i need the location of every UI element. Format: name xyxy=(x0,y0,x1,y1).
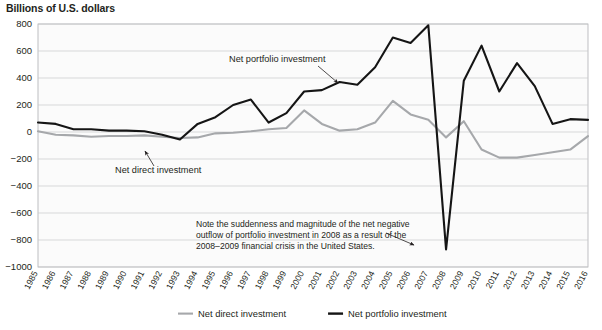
x-tick-2007: 2007 xyxy=(412,269,430,291)
x-tick-1986: 1986 xyxy=(40,269,58,291)
x-tick-1987: 1987 xyxy=(57,269,75,291)
annotation-line-2: outflow of portfolio investment in 2008 … xyxy=(196,230,406,240)
y-tick--200: −200 xyxy=(11,153,32,164)
x-tick-2008: 2008 xyxy=(430,269,448,291)
x-tick-2000: 2000 xyxy=(288,269,306,291)
x-tick-2010: 2010 xyxy=(466,269,484,291)
direct-inline-label: Net direct investment xyxy=(115,165,202,175)
x-tick-2013: 2013 xyxy=(519,269,537,291)
chart-figure: Billions of U.S. dollars 8006004002000−2… xyxy=(0,0,602,330)
y-tick-400: 400 xyxy=(16,72,32,83)
y-tick--1000: −1000 xyxy=(5,261,32,272)
x-tick-1993: 1993 xyxy=(164,269,182,291)
x-tick-2014: 2014 xyxy=(536,269,554,291)
y-axis-tick-labels: 8006004002000−200−400−600−800−1000 xyxy=(5,18,32,272)
x-tick-1990: 1990 xyxy=(111,269,129,291)
x-tick-2002: 2002 xyxy=(324,269,342,291)
x-tick-1994: 1994 xyxy=(182,269,200,291)
annotation-line-3: 2008–2009 financial crisis in the United… xyxy=(196,241,375,251)
x-tick-2006: 2006 xyxy=(395,269,413,291)
y-tick-0: 0 xyxy=(27,126,32,137)
x-tick-1997: 1997 xyxy=(235,269,253,291)
x-tick-2003: 2003 xyxy=(341,269,359,291)
y-tick--800: −800 xyxy=(11,234,32,245)
x-tick-2005: 2005 xyxy=(377,269,395,291)
x-tick-2016: 2016 xyxy=(572,269,590,291)
chart-legend: Net direct investmentNet portfolio inves… xyxy=(178,308,447,319)
x-tick-1992: 1992 xyxy=(146,269,164,291)
annotation-line-1: Note the suddenness and magnitude of the… xyxy=(196,219,410,229)
x-tick-2015: 2015 xyxy=(554,269,572,291)
x-tick-2012: 2012 xyxy=(501,269,519,291)
x-axis-tick-labels: 1985198619871988198919901991199219931994… xyxy=(22,269,590,291)
legend-item-net-direct-investment-label: Net direct investment xyxy=(198,308,286,319)
x-tick-2011: 2011 xyxy=(484,269,502,290)
x-tick-2004: 2004 xyxy=(359,269,377,291)
x-tick-2009: 2009 xyxy=(448,269,466,291)
y-tick-800: 800 xyxy=(16,18,32,29)
x-tick-2001: 2001 xyxy=(306,269,324,291)
x-tick-1999: 1999 xyxy=(270,269,288,291)
y-tick-600: 600 xyxy=(16,45,32,56)
x-tick-1991: 1991 xyxy=(128,269,146,291)
y-tick-200: 200 xyxy=(16,99,32,110)
chart-canvas: 8006004002000−200−400−600−800−1000 19851… xyxy=(0,0,602,330)
legend-item-net-portfolio-investment-label: Net portfolio investment xyxy=(348,308,447,319)
chart-axis-title: Billions of U.S. dollars xyxy=(6,2,115,14)
portfolio-inline-label: Net portfolio investment xyxy=(229,54,326,64)
x-tick-1996: 1996 xyxy=(217,269,235,291)
y-tick--400: −400 xyxy=(11,180,32,191)
y-tick--600: −600 xyxy=(11,207,32,218)
x-tick-1988: 1988 xyxy=(75,269,93,291)
x-tick-1989: 1989 xyxy=(93,269,111,291)
x-tick-1998: 1998 xyxy=(253,269,271,291)
x-tick-1995: 1995 xyxy=(199,269,217,291)
